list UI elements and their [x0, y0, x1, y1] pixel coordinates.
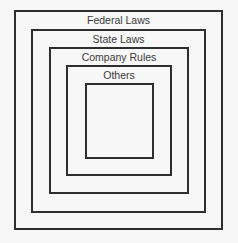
- company-rules-label: Company Rules: [51, 51, 187, 63]
- state-laws-label: State Laws: [33, 33, 204, 45]
- others-label: Others: [68, 69, 170, 81]
- innermost-box: [85, 83, 154, 159]
- federal-laws-label: Federal Laws: [16, 14, 221, 26]
